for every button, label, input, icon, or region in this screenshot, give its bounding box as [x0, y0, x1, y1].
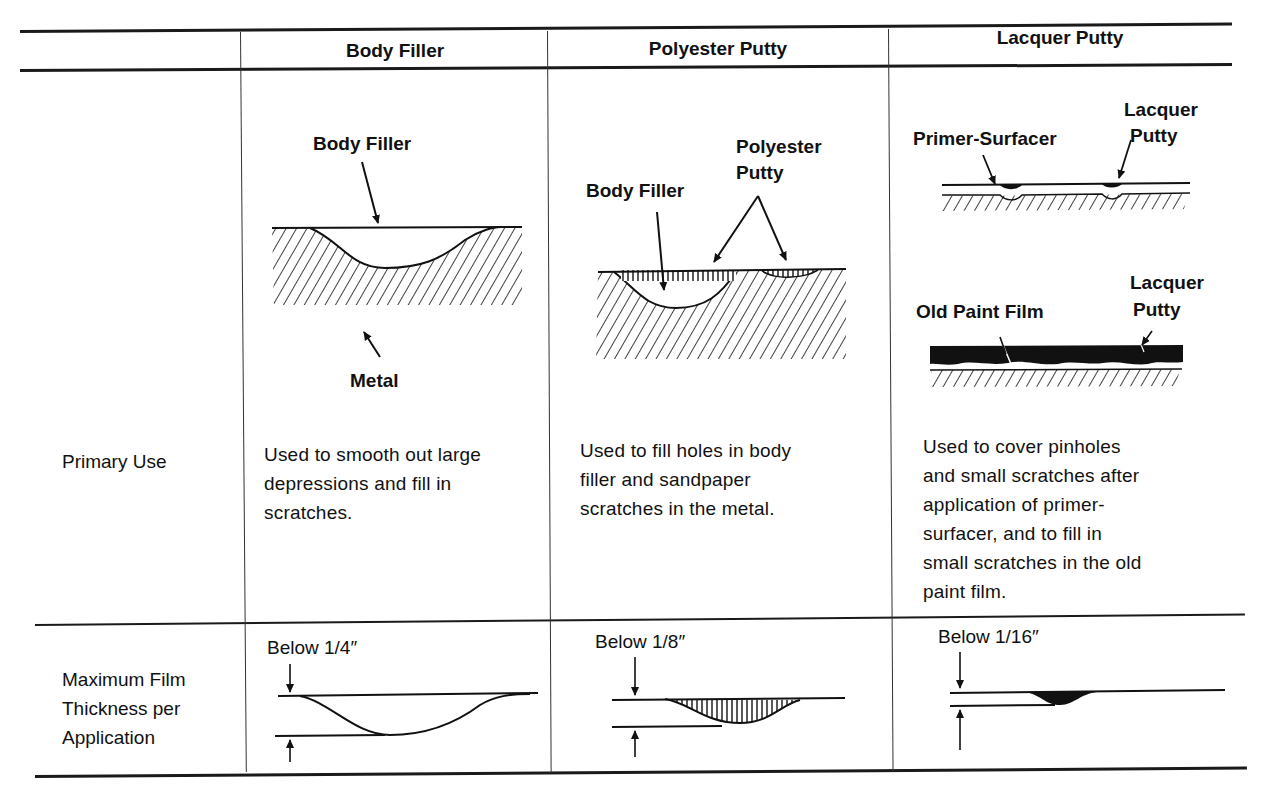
- row-label-primary-use: Primary Use: [62, 447, 167, 476]
- column-divider-1: [240, 32, 247, 772]
- desc-line: surfacer, and to fill in: [923, 519, 1142, 548]
- desc-line: Used to cover pinholes: [923, 432, 1142, 461]
- desc-line: scratches.: [264, 498, 481, 527]
- desc-line: and small scratches after: [923, 461, 1142, 490]
- lacquer-putty-top-label-line1: Lacquer: [1124, 97, 1198, 123]
- desc-line: scratches in the metal.: [580, 494, 791, 523]
- desc-line: depressions and fill in: [264, 469, 481, 498]
- desc-line: paint film.: [923, 577, 1142, 606]
- primary-use-body-filler: Used to smooth out large depressions and…: [264, 440, 481, 527]
- column-header-polyester-putty: Polyester Putty: [550, 38, 886, 60]
- desc-line: Used to fill holes in body: [580, 436, 791, 465]
- desc-line: application of primer-: [923, 490, 1142, 519]
- row-label-line: Maximum Film: [62, 665, 186, 694]
- thickness-diagram-polyester-putty: [600, 655, 880, 765]
- thickness-diagram-lacquer-putty: [940, 652, 1260, 762]
- row-divider-rule: [35, 613, 1245, 626]
- row-label-line: Application: [62, 723, 186, 752]
- thickness-lacquer-putty: Below 1/16″: [938, 626, 1039, 648]
- metal-diagram-label: Metal: [350, 368, 399, 394]
- lacquer-putty-primer-section: [938, 165, 1198, 225]
- lacquer-putty-top-label-line2: Putty: [1130, 123, 1178, 149]
- old-paint-film-label: Old Paint Film: [916, 299, 1044, 325]
- lacquer-putty-bottom-label-line1: Lacquer: [1130, 270, 1204, 296]
- lacquer-putty-paint-section: [928, 340, 1188, 400]
- thickness-body-filler: Below 1/4″: [267, 637, 357, 659]
- table-bottom-rule: [35, 767, 1247, 778]
- polyester-putty-label-line1: Polyester: [736, 134, 822, 160]
- desc-line: Used to smooth out large: [264, 440, 481, 469]
- column-header-body-filler: Body Filler: [243, 40, 547, 62]
- primer-surfacer-label: Primer-Surfacer: [913, 126, 1057, 152]
- thickness-polyester-putty: Below 1/8″: [595, 631, 685, 653]
- desc-line: filler and sandpaper: [580, 465, 791, 494]
- primary-use-lacquer-putty: Used to cover pinholes and small scratch…: [923, 432, 1142, 606]
- column-divider-3: [888, 29, 894, 771]
- column-header-lacquer-putty: Lacquer Putty: [890, 27, 1230, 49]
- lacquer-putty-bottom-label-line2: Putty: [1133, 297, 1181, 323]
- body-filler-cross-section: [250, 110, 550, 310]
- thickness-diagram-body-filler: [270, 660, 550, 760]
- desc-line: small scratches in the old: [923, 548, 1142, 577]
- polyester-putty-pointer-arrows: [596, 170, 896, 340]
- row-label-line: Thickness per: [62, 694, 186, 723]
- row-label-max-film-thickness: Maximum Film Thickness per Application: [62, 665, 186, 752]
- primary-use-polyester-putty: Used to fill holes in body filler and sa…: [580, 436, 791, 523]
- header-bottom-rule: [20, 63, 1232, 72]
